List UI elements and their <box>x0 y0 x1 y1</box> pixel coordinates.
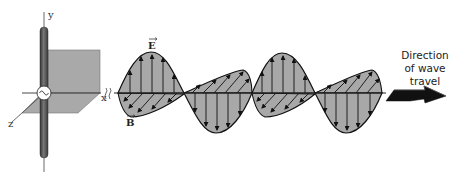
direction-text-line-1: Direction <box>401 49 448 61</box>
b-field-label: B <box>126 115 135 129</box>
direction-text-line-3: travel <box>410 75 440 87</box>
horizontal-plane <box>22 93 100 113</box>
direction-text-line-2: of wave <box>404 62 445 74</box>
svg-text:B: B <box>126 117 134 128</box>
e-field-lobe-2 <box>184 93 252 133</box>
svg-text:E: E <box>148 40 156 51</box>
direction-arrow-icon <box>386 86 446 103</box>
vertical-plane <box>48 50 100 93</box>
em-wave-diagram: y x z <box>0 0 456 178</box>
x-axis-label: x <box>101 92 107 103</box>
antenna-assembly: y x z <box>8 9 111 172</box>
e-field-lobe-3 <box>252 53 315 93</box>
y-axis-label: y <box>47 9 54 20</box>
direction-of-travel: Direction of wave travel <box>386 49 449 103</box>
z-axis-label: z <box>8 118 13 129</box>
electromagnetic-wave: E B <box>114 38 386 134</box>
e-field-label: E <box>148 38 157 52</box>
b-field-lobe-4 <box>315 70 382 93</box>
